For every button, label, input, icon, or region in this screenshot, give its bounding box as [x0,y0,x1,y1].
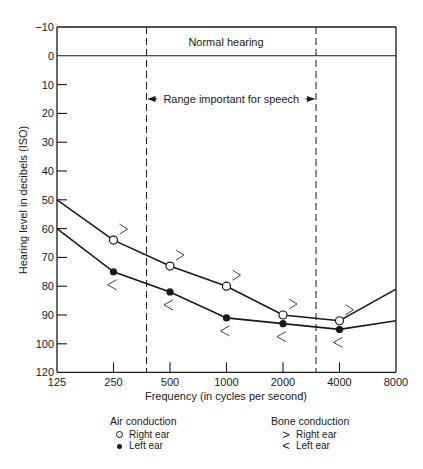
legend-air-conduction: Air conduction Right ear Left ear [110,416,177,451]
legend-air-left: Left ear [110,440,177,451]
bone-left-marker [334,337,343,347]
normal-hearing-label: Normal hearing [188,36,263,48]
legend-air-right: Right ear [110,429,177,440]
x-tick-label: 500 [161,376,179,388]
bone-left-marker [221,326,230,336]
filled-circle-marker [111,269,117,275]
arrow-left-icon [148,96,156,102]
y-tick-label: 60 [42,223,54,235]
y-tick-label: 80 [42,280,54,292]
y-tick-label: 90 [42,309,54,321]
legend-bone-conduction: Bone conduction > Right ear < Left ear [271,416,349,451]
legend-bone-title: Bone conduction [271,416,349,427]
legend-bone-left: < Left ear [271,440,349,451]
x-axis: 1252505001000200040008000 [48,362,408,388]
y-tick-label: 10 [42,79,54,91]
filled-circle-marker [224,315,230,321]
speech-range-annotation: Range important for speech [147,27,317,372]
open-circle-marker [279,311,287,319]
open-circle-marker [336,317,344,325]
open-circle-marker [110,236,118,244]
y-axis: −100102030405060708090100120 [35,21,67,378]
speech-range-label: Range important for speech [163,93,299,105]
bone-left-marker [277,332,286,342]
less-than-icon: < [281,440,291,451]
x-tick-label: 2000 [271,376,295,388]
x-tick-label: 4000 [327,376,351,388]
y-tick-label: −10 [35,21,54,33]
y-tick-label: 40 [42,165,54,177]
bone-right-marker [233,270,241,280]
open-circle-marker [223,282,231,290]
bone-left-marker [108,280,117,290]
open-circle-marker [166,262,174,270]
filled-circle-marker [280,321,286,327]
series-line [57,229,396,330]
open-circle-icon [116,431,123,438]
filled-circle-icon [117,444,122,449]
x-tick-label: 250 [104,376,122,388]
bone-right-marker [289,299,297,309]
x-tick-label: 1000 [214,376,238,388]
x-axis-title: Frequency (in cycles per second) [145,390,307,402]
y-tick-label: 20 [42,107,54,119]
filled-circle-marker [337,326,343,332]
y-tick-label: 100 [36,338,54,350]
bone-right-marker [120,224,128,234]
bone-right-marker [176,250,184,260]
audiogram-chart: −100102030405060708090100120 12525050010… [0,0,423,469]
data-series [57,200,396,348]
x-tick-label: 8000 [384,376,408,388]
y-tick-label: 70 [42,251,54,263]
y-tick-label: 50 [42,194,54,206]
arrow-right-icon [307,96,315,102]
series-line [57,200,396,321]
x-tick-label: 125 [48,376,66,388]
y-tick-label: 0 [48,50,54,62]
legend-air-title: Air conduction [110,416,177,427]
filled-circle-marker [167,289,173,295]
y-tick-label: 30 [42,136,54,148]
bone-left-marker [164,300,173,310]
y-axis-title: Hearing level in decibels (ISO) [17,126,29,275]
